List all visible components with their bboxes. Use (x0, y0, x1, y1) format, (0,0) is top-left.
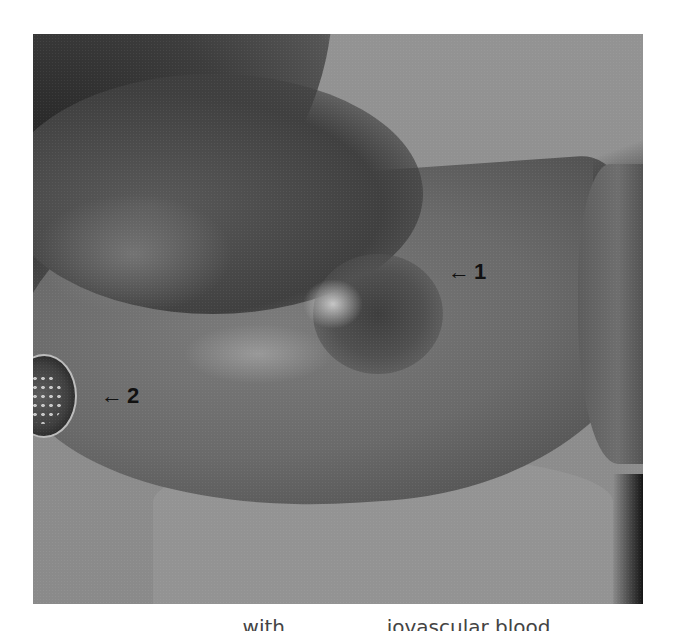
annotation-number: 2 (127, 383, 139, 409)
annotation-number: 1 (474, 259, 486, 285)
annotation-label-2: ← 2 (101, 383, 139, 409)
photo-grain (33, 34, 643, 604)
left-arrow-icon: ← (101, 383, 123, 409)
figure-caption-partial: ...with ... ... ... ...iovascular blood (0, 610, 674, 631)
annotation-label-1: ← 1 (448, 259, 486, 285)
left-arrow-icon: ← (448, 259, 470, 285)
figure: ← 1 ← 2 ...with ... ... ... ...iovascula… (0, 0, 674, 631)
clinical-photo (33, 34, 643, 604)
